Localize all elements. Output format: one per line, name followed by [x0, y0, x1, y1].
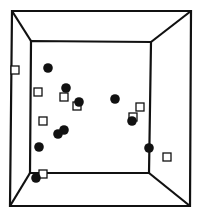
filled-circle-marker: [34, 142, 44, 152]
filled-circle-marker: [61, 83, 71, 93]
open-square-marker: [163, 153, 171, 161]
edge-tl: [12, 11, 31, 41]
filled-circle-marker: [144, 143, 154, 153]
inner-back-wall: [30, 41, 151, 173]
open-square-marker: [34, 88, 42, 96]
filled-circle-markers: [31, 63, 154, 183]
open-square-marker: [60, 93, 68, 101]
open-square-marker: [39, 117, 47, 125]
edge-bl: [10, 173, 30, 206]
open-square-marker: [11, 66, 19, 74]
box-scatter-diagram: [0, 0, 202, 218]
edge-tr: [151, 11, 191, 42]
filled-circle-marker: [53, 129, 63, 139]
filled-circle-marker: [110, 94, 120, 104]
edge-br: [149, 173, 190, 206]
filled-circle-marker: [43, 63, 53, 73]
filled-circle-marker: [31, 173, 41, 183]
open-square-markers: [11, 66, 171, 178]
filled-circle-marker: [127, 116, 137, 126]
filled-circle-marker: [74, 97, 84, 107]
open-square-marker: [136, 103, 144, 111]
